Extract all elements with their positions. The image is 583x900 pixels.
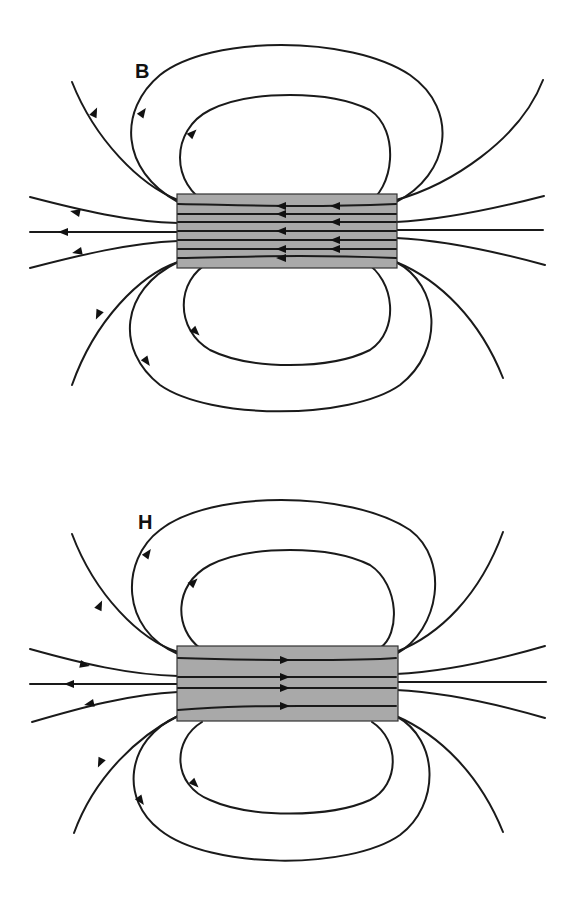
field-line-b-upper-outer xyxy=(131,45,442,202)
field-line-h-upper-far xyxy=(72,534,178,652)
field-line-h-upper-outer xyxy=(132,500,435,654)
field-line-h-left-bot xyxy=(32,692,178,722)
field-line-b-lower-outer xyxy=(130,262,432,411)
panel-label-b: B xyxy=(135,60,149,82)
field-line-b-upper-far-right xyxy=(396,80,543,200)
field-line-b-lower-inner xyxy=(184,262,390,365)
field-line-b-upper-inner xyxy=(180,95,390,205)
field-line-b-upper-far xyxy=(72,82,178,200)
field-line-h-right-bot xyxy=(396,690,545,718)
field-line-h-lower-inner xyxy=(180,722,392,814)
field-line-h-upper-inner xyxy=(181,550,394,648)
panel-b: B xyxy=(30,45,545,411)
field-line-h-upper-far-right xyxy=(396,532,503,652)
field-line-h-right-top xyxy=(396,646,545,674)
field-line-b-lower-far-right xyxy=(396,262,503,378)
panel-h: H xyxy=(30,500,546,861)
field-line-b-left-bot xyxy=(30,241,178,268)
field-line-h-lower-far xyxy=(74,716,178,833)
field-lines-figure: B xyxy=(0,0,583,900)
field-line-b-right-bot xyxy=(396,238,545,265)
panel-label-h: H xyxy=(138,511,152,533)
field-line-h-lower-far-right xyxy=(396,716,503,832)
field-line-b-lower-far xyxy=(72,262,178,385)
field-line-b-left-top xyxy=(30,197,178,223)
magnet-bar-h xyxy=(177,646,398,721)
field-line-b-right-top xyxy=(396,196,544,222)
field-line-h-left-top xyxy=(30,649,178,676)
